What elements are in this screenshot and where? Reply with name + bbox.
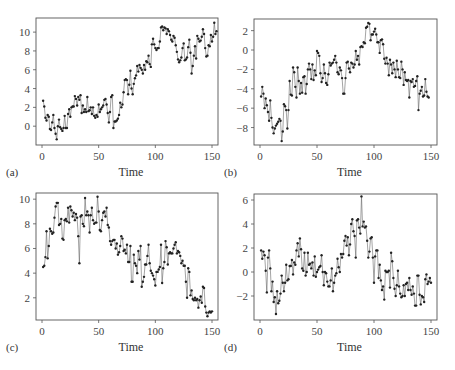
data-point xyxy=(323,63,325,65)
data-point xyxy=(187,46,189,48)
data-point xyxy=(203,33,205,35)
data-point xyxy=(358,226,360,228)
x-tick-label: 150 xyxy=(204,150,221,162)
data-point xyxy=(173,244,175,246)
data-point xyxy=(138,64,140,66)
data-point xyxy=(279,292,281,294)
x-axis-title: Time xyxy=(337,165,362,179)
panel-a: 0501001500246810Time(a) xyxy=(6,18,221,179)
data-point xyxy=(407,289,409,291)
data-point xyxy=(129,245,131,247)
data-point xyxy=(343,92,345,94)
data-point xyxy=(345,244,347,246)
data-point xyxy=(394,76,396,78)
data-point xyxy=(300,248,302,250)
data-point xyxy=(121,103,123,105)
data-point xyxy=(142,281,144,283)
data-point xyxy=(204,305,206,307)
data-point xyxy=(357,55,359,57)
data-point xyxy=(291,94,293,96)
data-point xyxy=(105,207,107,209)
data-point xyxy=(112,127,114,129)
x-tick-label: 100 xyxy=(366,150,383,162)
data-point xyxy=(188,38,190,40)
x-tick-label: 0 xyxy=(39,150,45,162)
data-point xyxy=(306,83,308,85)
data-point xyxy=(390,63,392,65)
data-point xyxy=(109,240,111,242)
data-point xyxy=(283,290,285,292)
data-point xyxy=(50,230,52,232)
data-point xyxy=(320,81,322,83)
x-tick-label: 50 xyxy=(312,325,324,337)
data-point xyxy=(130,87,132,89)
data-point xyxy=(384,62,386,64)
data-point xyxy=(50,129,52,131)
data-point xyxy=(296,242,298,244)
data-point xyxy=(272,132,274,134)
data-point xyxy=(339,271,341,273)
data-point xyxy=(383,58,385,60)
data-point xyxy=(124,249,126,251)
data-point xyxy=(105,103,107,105)
data-point xyxy=(382,43,384,45)
data-point xyxy=(92,219,94,221)
data-point xyxy=(368,23,370,25)
data-point xyxy=(48,116,50,118)
data-point xyxy=(114,247,116,249)
data-point xyxy=(424,278,426,280)
data-point xyxy=(118,114,120,116)
data-point xyxy=(266,104,268,106)
y-tick-label: −4 xyxy=(236,83,248,95)
data-point xyxy=(388,74,390,76)
data-point xyxy=(180,262,182,264)
data-point xyxy=(97,103,99,105)
y-tick-label: −2 xyxy=(236,63,248,75)
data-point xyxy=(107,112,109,114)
data-point xyxy=(407,79,409,81)
data-point xyxy=(171,252,173,254)
data-point xyxy=(344,77,346,79)
data-point xyxy=(410,81,412,83)
series-line xyxy=(261,23,429,141)
data-point xyxy=(293,71,295,73)
data-point xyxy=(197,37,199,39)
data-point xyxy=(117,117,119,119)
y-tick-label: −8 xyxy=(236,122,248,134)
data-point xyxy=(355,256,357,258)
data-point xyxy=(48,245,50,247)
data-point xyxy=(299,92,301,94)
data-point xyxy=(95,221,97,223)
data-point xyxy=(348,67,350,69)
data-point xyxy=(91,207,93,209)
data-point xyxy=(67,207,69,209)
x-tick-label: 100 xyxy=(366,325,383,337)
data-point xyxy=(425,90,427,92)
data-point xyxy=(282,282,284,284)
data-point xyxy=(293,261,295,263)
data-point xyxy=(287,278,289,280)
data-point xyxy=(46,257,48,259)
x-tick-label: 0 xyxy=(257,150,263,162)
data-point xyxy=(121,237,123,239)
data-point xyxy=(415,304,417,306)
data-point xyxy=(116,242,118,244)
x-axis-title: Time xyxy=(337,340,362,354)
y-tick-label: 10 xyxy=(19,26,31,38)
data-point xyxy=(341,256,343,258)
data-point xyxy=(206,315,208,317)
data-point xyxy=(54,205,56,207)
data-point xyxy=(394,295,396,297)
x-tick-label: 50 xyxy=(312,150,324,162)
data-point xyxy=(213,22,215,24)
data-point xyxy=(84,108,86,110)
data-point xyxy=(278,300,280,302)
data-point xyxy=(340,69,342,71)
data-point xyxy=(150,269,152,271)
data-point xyxy=(417,109,419,111)
data-point xyxy=(267,111,269,113)
data-point xyxy=(372,256,374,258)
data-point xyxy=(57,125,59,127)
data-point xyxy=(117,253,119,255)
data-point xyxy=(408,277,410,279)
